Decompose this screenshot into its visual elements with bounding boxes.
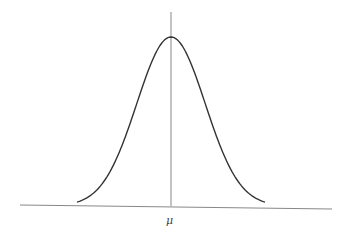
- mean-label: μ: [166, 214, 173, 227]
- normal-curve-diagram: μ: [0, 0, 345, 236]
- x-axis: [20, 205, 332, 209]
